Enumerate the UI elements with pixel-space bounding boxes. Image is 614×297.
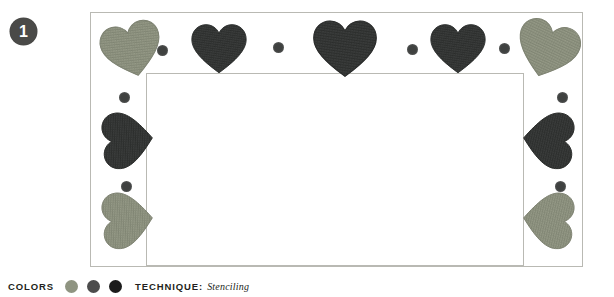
technique-label: TECHNIQUE: <box>135 281 203 292</box>
color-swatch-sage-green <box>65 280 78 293</box>
colors-label: COLORS <box>8 281 54 292</box>
dot-left-1 <box>119 92 130 103</box>
heart-top-3 <box>303 19 387 79</box>
dot-top-4 <box>499 43 510 54</box>
inner-frame-rectangle <box>146 73 524 266</box>
heart-top-4 <box>425 23 491 75</box>
caption-bar: COLORS TECHNIQUE: Stenciling <box>8 278 249 294</box>
dot-top-2 <box>273 42 284 53</box>
dot-top-1 <box>157 45 168 56</box>
technique-value: Stenciling <box>207 281 249 292</box>
border-design-plate <box>90 12 583 267</box>
color-swatch-near-black <box>109 280 122 293</box>
dot-right-2 <box>555 181 566 192</box>
dot-right-1 <box>557 92 568 103</box>
heart-right-2 <box>517 189 580 252</box>
step-number-badge: 1 <box>10 18 37 45</box>
dot-left-2 <box>121 181 132 192</box>
color-swatch-charcoal-gray <box>87 280 100 293</box>
color-swatch-group <box>65 280 122 293</box>
dot-top-3 <box>407 44 418 55</box>
heart-right-1 <box>517 109 580 172</box>
heart-top-2 <box>186 23 252 75</box>
